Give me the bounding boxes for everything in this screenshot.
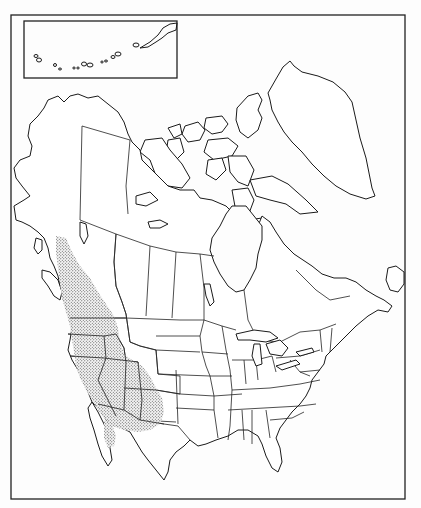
newfoundland <box>386 266 404 292</box>
map-canvas <box>0 0 421 508</box>
aleutian-inset <box>24 21 177 78</box>
greenland <box>268 61 375 199</box>
